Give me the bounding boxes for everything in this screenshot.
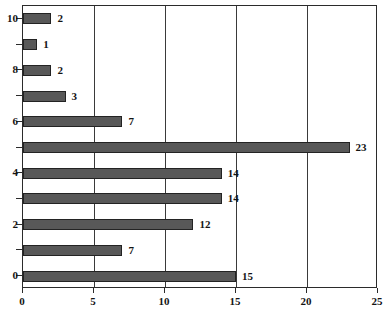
y-axis-label-8: 8: [0, 63, 18, 75]
bar-category-6: [23, 116, 122, 127]
bar-value-label: 7: [128, 114, 134, 128]
x-tick-0: [22, 288, 23, 293]
bar-category-4: [23, 168, 222, 179]
x-axis-label-15: 15: [220, 295, 250, 308]
bar-category-1: [23, 245, 122, 256]
bar-row: 12: [23, 219, 378, 230]
bar-value-label: 14: [228, 166, 239, 180]
x-tick-5: [93, 288, 94, 293]
x-axis-label-10: 10: [149, 295, 179, 308]
y-tick-3: [16, 198, 23, 199]
x-tick-15: [235, 288, 236, 293]
bar-value-label: 14: [228, 191, 239, 205]
bar-row: 7: [23, 245, 378, 256]
x-axis-label-20: 20: [291, 295, 321, 308]
bar-category-7: [23, 91, 66, 102]
bar-value-label: 7: [128, 243, 134, 257]
bar-value-label: 2: [57, 11, 63, 25]
bar-row: 14: [23, 193, 378, 204]
bar-category-8: [23, 65, 51, 76]
bar-row: 2: [23, 65, 378, 76]
bar-category-3: [23, 193, 222, 204]
bar-row: 2: [23, 13, 378, 24]
bar-row: 7: [23, 116, 378, 127]
bar-value-label: 15: [242, 269, 253, 283]
y-axis-label-2: 2: [0, 218, 18, 230]
x-tick-20: [306, 288, 307, 293]
bar-value-label: 1: [43, 37, 49, 51]
x-tick-25: [377, 288, 378, 293]
bar-row: 3: [23, 91, 378, 102]
bar-category-9: [23, 39, 37, 50]
y-tick-1: [16, 249, 23, 250]
x-axis-label-25: 25: [362, 295, 392, 308]
bar-row: 23: [23, 142, 378, 153]
y-axis-label-0: 0: [0, 269, 18, 281]
y-tick-5: [16, 147, 23, 148]
bar-category-5: [23, 142, 350, 153]
y-axis-label-6: 6: [0, 115, 18, 127]
bar-row: 14: [23, 168, 378, 179]
y-tick-9: [16, 44, 23, 45]
bar-value-label: 3: [72, 89, 78, 103]
bar-value-label: 23: [356, 140, 367, 154]
x-axis-label-5: 5: [78, 295, 108, 308]
cropped-caption-fragment: [55, 311, 355, 318]
bar-category-10: [23, 13, 51, 24]
x-axis-label-0: 0: [7, 295, 37, 308]
bar-value-label: 12: [199, 217, 210, 231]
bar-category-2: [23, 219, 193, 230]
x-tick-10: [164, 288, 165, 293]
plot-area: 1571214142373212: [22, 5, 377, 288]
bar-category-0: [23, 271, 236, 282]
cropped-title-fragment: [70, 0, 330, 1]
y-axis-label-4: 4: [0, 166, 18, 178]
bar-value-label: 2: [57, 63, 63, 77]
y-axis-label-10: 10: [0, 12, 18, 24]
bar-row: 1: [23, 39, 378, 50]
y-tick-7: [16, 95, 23, 96]
bar-chart: 1571214142373212 0246810 0510152025: [0, 0, 392, 318]
bar-row: 15: [23, 271, 378, 282]
